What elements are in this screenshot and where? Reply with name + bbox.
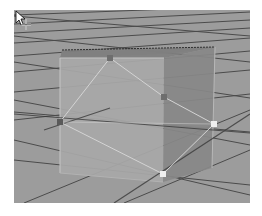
vertex-handle[interactable] [107, 55, 113, 61]
vertex-handle-selected[interactable] [211, 121, 217, 127]
move-cursor-icon [14, 10, 34, 32]
vertex-handle-selected[interactable] [160, 171, 166, 177]
scene-canvas[interactable] [14, 10, 250, 203]
cube-right-face [163, 47, 215, 182]
cube-object[interactable] [60, 47, 215, 182]
vertex-handle[interactable] [57, 119, 63, 125]
vertex-handle[interactable] [161, 94, 167, 100]
3d-viewport[interactable] [14, 10, 250, 203]
